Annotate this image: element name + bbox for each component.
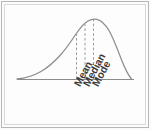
distribution-plot (0, 0, 151, 130)
distribution-curve (17, 19, 132, 79)
figure-container: Mean Median Mode (0, 0, 151, 130)
